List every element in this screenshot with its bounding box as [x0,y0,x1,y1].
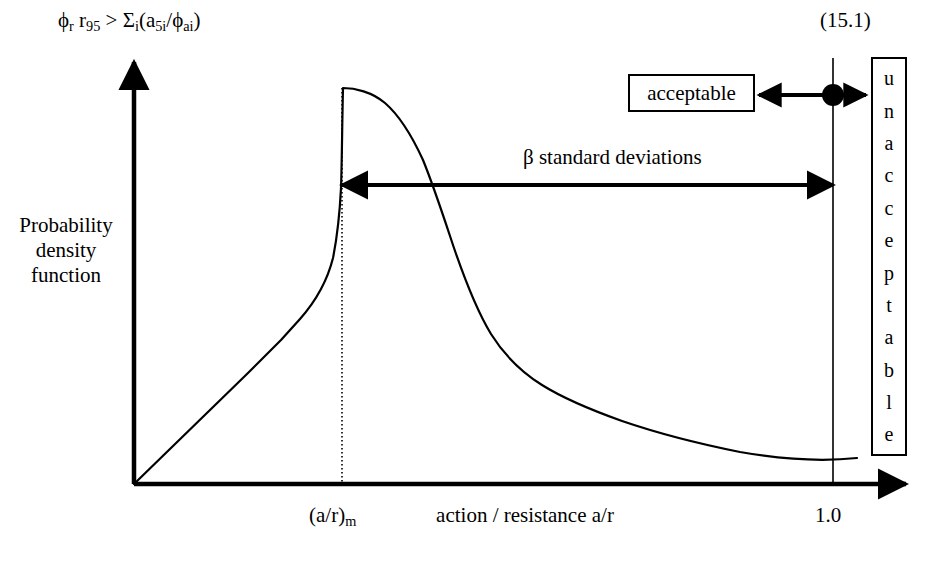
formula-phi-r-sub: r [69,18,74,34]
unacceptable-letter-5: e [885,224,894,256]
formula-r95-sub: 95 [86,18,100,34]
acceptable-label: acceptable [647,81,736,106]
unacceptable-letter-0: u [884,62,894,94]
unacceptable-letter-2: a [885,127,894,159]
unacceptable-letter-7: t [886,289,892,321]
formula-phi-ai: ϕ [172,8,183,32]
unacceptable-letter-8: a [885,321,894,353]
condition-formula: ϕr r95 > Σi(a5i/ϕai) [58,8,201,35]
formula-a5i: a [146,8,155,32]
unacceptable-letter-3: c [885,159,894,191]
unacceptable-letter-4: c [885,192,894,224]
formula-close-paren: ) [194,8,201,32]
acceptable-box: acceptable [628,74,755,112]
formula-a5i-sub: 5i [155,18,166,34]
x-tick-label-mode: (a/r)m [309,503,356,529]
unacceptable-letter-11: e [885,418,894,450]
formula-open-paren: ( [139,8,146,32]
unacceptable-letter-1: n [884,95,894,127]
unacceptable-letter-10: l [886,386,892,418]
x-axis-label: action / resistance a/r [405,503,645,528]
x-tick-mode-text: (a/r) [309,503,345,527]
density-curve [134,88,857,484]
formula-sigma: Σ [123,8,135,32]
unity-point-marker [822,84,844,106]
probability-density-figure: ϕr r95 > Σi(a5i/ϕai) (15.1) Probability … [0,0,928,579]
y-axis-label: Probability density function [10,213,122,287]
formula-phi-ai-sub: ai [183,18,193,34]
formula-relation: > [106,8,118,32]
x-tick-mode-sub: m [345,513,356,529]
equation-number: (15.1) [820,8,871,33]
unacceptable-box: unacceptable [871,57,907,456]
formula-phi-r: ϕ [58,8,69,32]
beta-annotation-label: β standard deviations [523,145,702,170]
plot-canvas [0,0,928,579]
unacceptable-letter-9: b [884,354,894,386]
x-tick-label-unity: 1.0 [815,503,841,528]
unacceptable-letter-6: p [884,257,894,289]
